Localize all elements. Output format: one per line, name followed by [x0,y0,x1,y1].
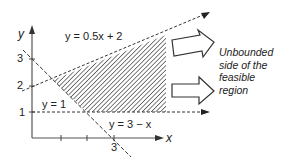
unbounded-arrow-lower-icon [172,77,214,104]
feasible-region-hatch [53,35,166,112]
x-tick-label-3: 3 [111,142,117,153]
unbounded-arrow-upper-icon [172,30,214,57]
y-tick-label-3: 3 [17,53,23,64]
y-axis-label: y [18,28,24,40]
y-tick-label-2: 2 [17,80,23,91]
x-axis-label: x [166,132,172,144]
region-annotation-line-3: feasible [219,71,273,84]
y-tick-label-1: 1 [19,107,25,118]
region-annotation-line-4: region [219,84,273,97]
region-annotation-line-1: Unbounded [219,46,273,59]
x-axis-arrow-icon [155,135,164,141]
y-axis-arrow-icon [29,25,35,34]
line-bottom-arrow-icon [201,109,210,115]
line-top-label: y = 0.5x + 2 [65,31,122,42]
line-diagonal-label: y = 3 − x [109,119,151,130]
line-top-arrow-icon [201,12,210,19]
region-annotation: Unbounded side of the feasible region [219,46,273,96]
line-bottom-label: y = 1 [42,99,66,110]
region-annotation-line-2: side of the [219,59,273,72]
